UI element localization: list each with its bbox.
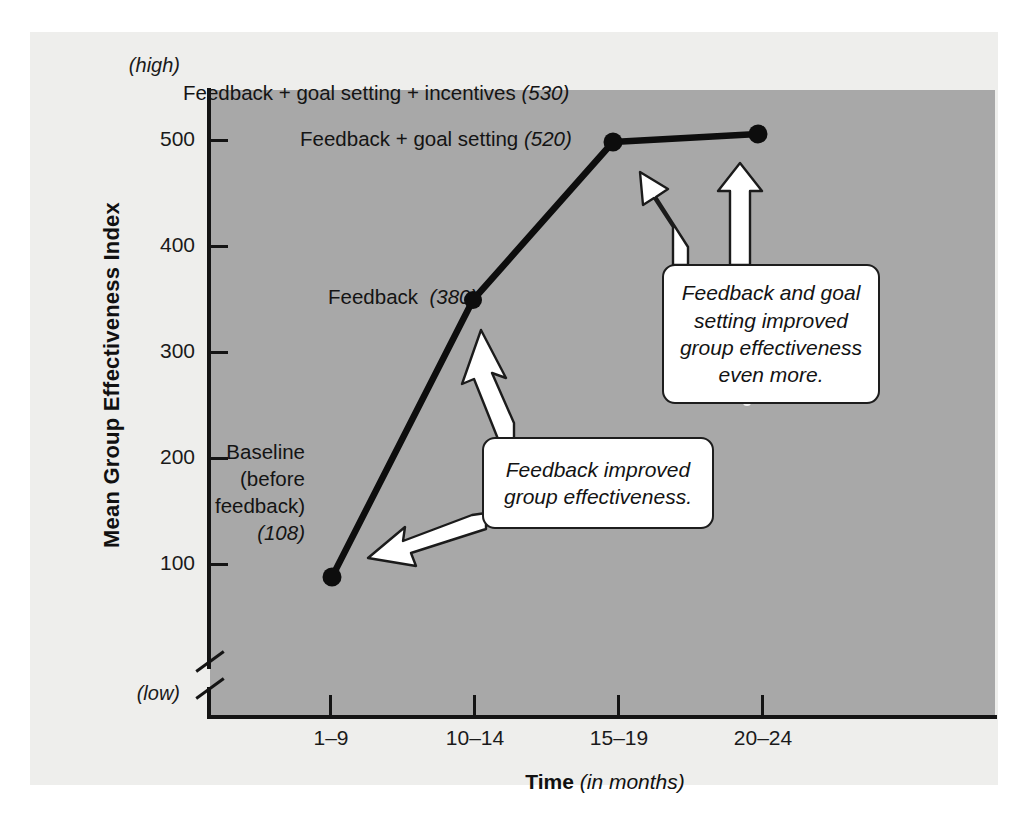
label-baseline-line1: Baseline [130,438,305,465]
y-axis-low-label: (low) [60,682,180,705]
x-tick-3 [617,695,620,715]
label-baseline-value: (108) [257,521,305,544]
callout-upper-text: Feedback and goal setting improved group… [678,279,864,388]
x-tick-1 [329,695,332,715]
x-tick-4 [761,695,764,715]
label-feedback-text: Feedback [328,285,418,308]
x-axis-title-bold: Time [525,770,574,793]
y-tick-label-300: 300 [75,339,195,363]
callout-upper: Feedback and goal setting improved group… [662,264,880,404]
x-tick-2 [473,695,476,715]
label-baseline: Baseline (before feedback) (108) [130,438,305,546]
y-tick-400 [211,245,228,248]
callout-lower-text: Feedback improved group effectiveness. [498,456,698,511]
y-axis-title: Mean Group Effectiveness Index [99,175,125,575]
chart-page: (high) (low) 500 400 300 200 100 1–9 10–… [0,0,1025,815]
x-tick-label-3: 15–19 [549,726,689,750]
x-tick-label-1: 1–9 [261,726,401,750]
x-axis-title: Time (in months) [210,770,1000,794]
y-tick-label-400: 400 [75,233,195,257]
label-feedback: Feedback (380) [328,285,477,309]
label-incentives-value: (530) [521,81,569,104]
y-tick-label-500: 500 [75,127,195,151]
y-tick-300 [211,351,228,354]
label-goal-setting-text: Feedback + goal setting [300,127,518,150]
label-incentives-text: Feedback + goal setting + incentives [183,81,516,104]
y-axis-line [207,88,211,669]
plot-area [210,90,995,717]
x-tick-label-4: 20–24 [693,726,833,750]
y-tick-100 [211,563,228,566]
label-feedback-value: (380) [429,285,477,308]
x-axis-title-italic: (in months) [580,770,685,793]
label-incentives: Feedback + goal setting + incentives (53… [183,81,569,105]
x-tick-label-2: 10–14 [405,726,545,750]
y-axis-high-label: (high) [60,54,180,77]
x-axis-line [207,715,997,719]
callout-lower: Feedback improved group effectiveness. [482,437,714,529]
y-tick-500 [211,139,228,142]
y-tick-label-100: 100 [75,551,195,575]
label-goal-setting: Feedback + goal setting (520) [300,127,572,151]
label-baseline-line2: (before [130,465,305,492]
label-goal-setting-value: (520) [524,127,572,150]
figure-panel: (high) (low) 500 400 300 200 100 1–9 10–… [30,32,998,785]
label-baseline-line3: feedback) [130,492,305,519]
